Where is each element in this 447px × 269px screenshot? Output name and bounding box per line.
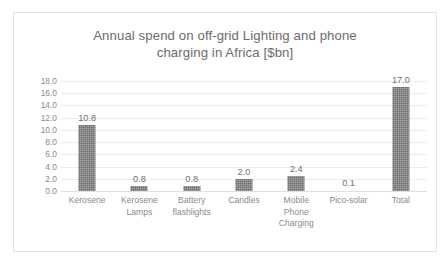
- y-axis-tick-label: 2.0: [23, 174, 57, 184]
- bar-value-label: 0.8: [185, 174, 198, 184]
- y-axis-tick-label: 8.0: [23, 137, 57, 147]
- y-axis-tick-label: 6.0: [23, 149, 57, 159]
- x-axis-category-label: Total: [375, 195, 427, 207]
- chart-title: Annual spend on off-grid Lighting and ph…: [44, 27, 406, 61]
- y-axis-tick-label: 10.0: [23, 125, 57, 135]
- y-axis-tick-label: 14.0: [23, 100, 57, 110]
- bar[interactable]: [183, 186, 200, 191]
- bar-slot: 0.8: [113, 81, 165, 191]
- plot-area: 18.016.014.012.010.08.06.04.02.00.0 10.8…: [61, 81, 427, 191]
- bar[interactable]: [235, 179, 252, 191]
- bar-slot: 2.4: [270, 81, 322, 191]
- bar[interactable]: [288, 176, 305, 191]
- y-axis-tick-label: 0.0: [23, 186, 57, 196]
- y-axis-tick-label: 4.0: [23, 162, 57, 172]
- y-axis-tick-label: 18.0: [23, 76, 57, 86]
- bar-value-label: 2.4: [290, 164, 303, 174]
- bar-slot: 2.0: [218, 81, 270, 191]
- bar-slot: 0.8: [166, 81, 218, 191]
- bar[interactable]: [392, 87, 409, 191]
- bar-slot: 10.8: [61, 81, 113, 191]
- bar-value-label: 0.1: [342, 178, 355, 188]
- x-axis-category-labels: KeroseneKerosene LampsBattery flashlight…: [61, 195, 427, 251]
- chart-container: Annual spend on off-grid Lighting and ph…: [13, 12, 437, 252]
- y-axis-tick-label: 12.0: [23, 113, 57, 123]
- x-axis-category-label: Kerosene Lamps: [113, 195, 165, 218]
- x-axis-category-label: Candles: [218, 195, 270, 207]
- bar-value-label: 2.0: [238, 167, 251, 177]
- x-axis-category-label: Pico-solar: [322, 195, 374, 207]
- y-axis-tick-label: 16.0: [23, 88, 57, 98]
- bar-slot: 17.0: [375, 81, 427, 191]
- x-axis-category-label: Mobile Phone Charging: [270, 195, 322, 230]
- bar-series: 10.80.80.82.02.40.117.0: [61, 81, 427, 191]
- x-axis-category-label: Kerosene: [61, 195, 113, 207]
- bar-value-label: 17.0: [392, 75, 410, 85]
- bar-slot: 0.1: [322, 81, 374, 191]
- bar[interactable]: [79, 125, 96, 191]
- x-axis-category-label: Battery flashlights: [166, 195, 218, 218]
- bar-value-label: 10.8: [78, 113, 96, 123]
- gridline-0.0: [61, 191, 427, 192]
- bar[interactable]: [131, 186, 148, 191]
- bar-value-label: 0.8: [133, 174, 146, 184]
